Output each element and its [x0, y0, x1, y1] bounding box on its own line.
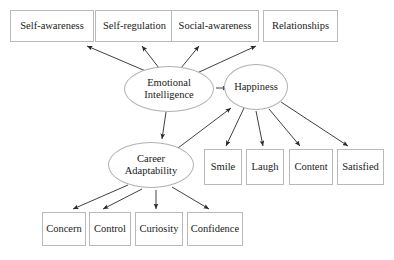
indicator-label: Self-regulation — [103, 20, 166, 32]
indicator-box-content: Content — [289, 149, 333, 185]
indicator-box-smile: Smile — [204, 149, 242, 185]
edge-career-to-concern — [73, 185, 128, 209]
indicator-box-self-awareness: Self-awareness — [10, 10, 94, 42]
indicator-label: Satisfied — [342, 161, 379, 173]
indicator-box-self-regulation: Self-regulation — [95, 10, 174, 42]
latent-label: Emotional Intelligence — [144, 77, 194, 101]
latent-node-happiness: Happiness — [224, 64, 288, 110]
edge-happiness-to-laugh — [256, 111, 263, 146]
indicator-box-control: Control — [89, 212, 131, 246]
latent-label: Career Adaptability — [125, 153, 178, 177]
indicator-label: Social-awareness — [179, 20, 252, 32]
indicator-box-confidence: Confidence — [187, 212, 243, 246]
indicator-label: Control — [94, 223, 126, 235]
edge-ei-to-career-adaptability — [162, 112, 166, 139]
edge-career-to-control — [103, 189, 142, 209]
edge-happiness-to-content — [269, 109, 300, 146]
indicator-box-curiosity: Curiosity — [135, 212, 183, 246]
edge-career-to-confidence — [172, 187, 209, 209]
indicator-label: Confidence — [191, 223, 239, 235]
indicator-box-satisfied: Satisfied — [337, 149, 384, 185]
latent-label-line1: Career — [125, 153, 178, 165]
edge-happiness-to-satisfied — [281, 102, 348, 146]
indicator-label: Concern — [46, 223, 82, 235]
indicator-label: Self-awareness — [20, 20, 84, 32]
indicator-label: Smile — [211, 161, 236, 173]
edge-ei-to-social-awareness — [181, 46, 199, 68]
latent-label: Happiness — [234, 81, 278, 93]
edge-career-to-happiness — [178, 108, 231, 148]
edge-ei-to-self-regulation — [142, 46, 159, 68]
edge-happiness-to-smile — [226, 108, 244, 146]
indicator-box-concern: Concern — [42, 212, 86, 246]
indicator-box-laugh: Laugh — [246, 149, 284, 185]
indicator-label: Curiosity — [139, 223, 178, 235]
latent-label-line2: Adaptability — [125, 165, 178, 177]
latent-node-emotional-intelligence: Emotional Intelligence — [124, 66, 214, 112]
latent-label-line1: Happiness — [234, 81, 278, 93]
latent-node-career-adaptability: Career Adaptability — [108, 142, 194, 188]
latent-label-line1: Emotional — [144, 77, 194, 89]
indicator-box-relationships: Relationships — [263, 10, 338, 42]
indicator-label: Content — [294, 161, 327, 173]
latent-label-line2: Intelligence — [144, 89, 194, 101]
edge-ei-to-self-awareness — [87, 46, 148, 72]
path-diagram-canvas: Self-awareness Self-regulation Social-aw… — [0, 0, 394, 260]
indicator-box-social-awareness: Social-awareness — [171, 10, 259, 42]
indicator-label: Relationships — [272, 20, 329, 32]
indicator-label: Laugh — [252, 161, 279, 173]
